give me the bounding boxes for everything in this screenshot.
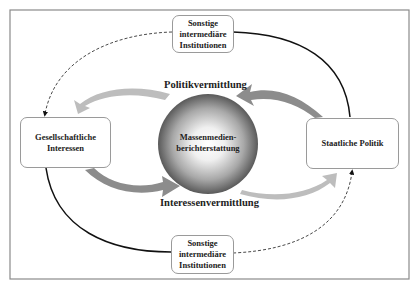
node-right-line1: Staatliche Politik <box>321 138 383 149</box>
node-social-interests: Gesellschaftliche Interessen <box>20 117 111 168</box>
node-top-intermediary: Sonstige intermediäre Institutionen <box>172 15 234 53</box>
node-left-line1: Gesellschaftliche <box>35 132 96 143</box>
connector-top-to-left-dashed <box>45 32 172 114</box>
node-bottom-line2: intermediäre <box>179 249 226 260</box>
sphere-label-line2: berichterstattung <box>158 143 258 154</box>
node-top-line2: intermediäre <box>179 29 226 40</box>
flow-label-politikvermittlung: Politikvermittlung <box>164 79 247 90</box>
node-bottom-intermediary: Sonstige intermediäre Institutionen <box>171 235 234 274</box>
arrow-interessen-left <box>85 168 180 197</box>
diagram-canvas: Sonstige intermediäre Institutionen Gese… <box>0 0 418 287</box>
arrow-politik-right <box>236 84 323 118</box>
sphere-label-line1: Massenmedien- <box>158 132 258 143</box>
node-top-line3: Institutionen <box>179 40 226 51</box>
node-bottom-line1: Sonstige <box>179 238 226 249</box>
arrow-interessen-right <box>240 173 337 199</box>
node-bottom-line3: Institutionen <box>179 260 226 271</box>
flow-label-interessenvermittlung: Interessenvermittlung <box>160 197 259 208</box>
arrow-politik-left <box>74 89 170 114</box>
node-state-politics: Staatliche Politik <box>306 118 399 169</box>
node-left-line2: Interessen <box>35 143 96 154</box>
sphere-label: Massenmedien- berichterstattung <box>158 132 258 154</box>
node-top-line1: Sonstige <box>179 18 226 29</box>
